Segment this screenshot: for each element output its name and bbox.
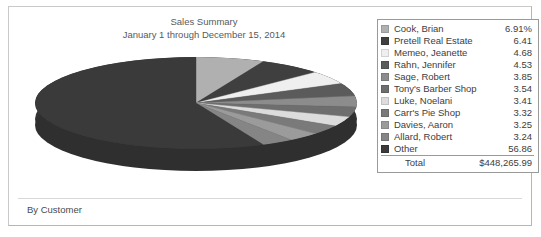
legend-total-spacer bbox=[381, 156, 391, 170]
legend-value: 3.32 bbox=[477, 107, 534, 119]
legend-color-swatch bbox=[381, 25, 389, 33]
legend-row[interactable]: Rahn, Jennifer4.53 bbox=[381, 59, 534, 71]
legend-label: Rahn, Jennifer bbox=[391, 59, 477, 71]
chart-title: Sales Summary January 1 through December… bbox=[49, 15, 359, 41]
legend-value: 4.68 bbox=[477, 47, 534, 59]
legend-label: Memeo, Jeanette bbox=[391, 47, 477, 59]
legend-color-swatch bbox=[381, 121, 389, 129]
legend-value: 56.86 bbox=[477, 143, 534, 156]
legend-value: 3.85 bbox=[477, 71, 534, 83]
legend-color-swatch bbox=[381, 85, 389, 93]
legend-color-swatch bbox=[381, 109, 389, 117]
legend-label: Pretell Real Estate bbox=[391, 35, 477, 47]
pie-slices bbox=[35, 57, 357, 149]
legend-row[interactable]: Sage, Robert3.85 bbox=[381, 71, 534, 83]
legend-row[interactable]: Other56.86 bbox=[381, 143, 534, 156]
legend-total-value: $448,265.99 bbox=[477, 156, 534, 170]
report-canvas: Sales Summary January 1 through December… bbox=[0, 0, 541, 237]
legend-label: Luke, Noelani bbox=[391, 95, 477, 107]
footer-label: By Customer bbox=[27, 204, 82, 215]
legend-label: Davies, Aaron bbox=[391, 119, 477, 131]
pie-top-face bbox=[35, 57, 357, 149]
chart-title-line-2: January 1 through December 15, 2014 bbox=[49, 28, 359, 41]
chart-title-line-1: Sales Summary bbox=[49, 15, 359, 28]
legend-swatch-cell bbox=[381, 131, 391, 143]
legend-swatch-cell bbox=[381, 23, 391, 35]
legend-swatch-cell bbox=[381, 47, 391, 59]
legend-label: Sage, Robert bbox=[391, 71, 477, 83]
legend-swatch-cell bbox=[381, 35, 391, 47]
legend-label: Tony's Barber Shop bbox=[391, 83, 477, 95]
legend-swatch-cell bbox=[381, 71, 391, 83]
legend-label: Other bbox=[391, 143, 477, 156]
legend-table: Cook, Brian6.91%Pretell Real Estate6.41M… bbox=[381, 23, 534, 169]
legend-value: 3.25 bbox=[477, 119, 534, 131]
legend-value: 6.41 bbox=[477, 35, 534, 47]
legend-value: 3.54 bbox=[477, 83, 534, 95]
legend-swatch-cell bbox=[381, 95, 391, 107]
legend-row[interactable]: Cook, Brian6.91% bbox=[381, 23, 534, 35]
legend-swatch-cell bbox=[381, 119, 391, 131]
legend-swatch-cell bbox=[381, 107, 391, 119]
legend-row[interactable]: Pretell Real Estate6.41 bbox=[381, 35, 534, 47]
legend-swatch-cell bbox=[381, 143, 391, 156]
legend-row[interactable]: Luke, Noelani3.41 bbox=[381, 95, 534, 107]
legend-value: 3.24 bbox=[477, 131, 534, 143]
legend-swatch-cell bbox=[381, 83, 391, 95]
legend-total-label: Total bbox=[391, 156, 477, 170]
legend-color-swatch bbox=[381, 73, 389, 81]
legend-color-swatch bbox=[381, 61, 389, 69]
legend-color-swatch bbox=[381, 97, 389, 105]
legend-color-swatch bbox=[381, 37, 389, 45]
legend-value: 6.91% bbox=[477, 23, 534, 35]
legend-row[interactable]: Memeo, Jeanette4.68 bbox=[381, 47, 534, 59]
legend-row[interactable]: Tony's Barber Shop3.54 bbox=[381, 83, 534, 95]
report-frame: Sales Summary January 1 through December… bbox=[8, 6, 532, 226]
legend-swatch-cell bbox=[381, 59, 391, 71]
pie-chart[interactable] bbox=[27, 51, 367, 186]
legend-color-swatch bbox=[381, 145, 389, 153]
legend-label: Allard, Robert bbox=[391, 131, 477, 143]
footer-divider bbox=[18, 198, 522, 199]
legend-panel[interactable]: Cook, Brian6.91%Pretell Real Estate6.41M… bbox=[377, 19, 539, 173]
legend-row[interactable]: Davies, Aaron3.25 bbox=[381, 119, 534, 131]
legend-row[interactable]: Allard, Robert3.24 bbox=[381, 131, 534, 143]
legend-color-swatch bbox=[381, 49, 389, 57]
legend-color-swatch bbox=[381, 133, 389, 141]
legend-row[interactable]: Carr's Pie Shop3.32 bbox=[381, 107, 534, 119]
legend-total-row: Total$448,265.99 bbox=[381, 156, 534, 170]
legend-label: Carr's Pie Shop bbox=[391, 107, 477, 119]
legend-value: 3.41 bbox=[477, 95, 534, 107]
legend-value: 4.53 bbox=[477, 59, 534, 71]
legend-label: Cook, Brian bbox=[391, 23, 477, 35]
